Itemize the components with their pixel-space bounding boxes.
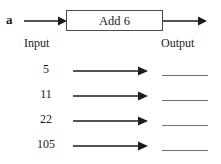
- input-value: 5: [22, 61, 70, 77]
- row-arrow-icon: [73, 114, 149, 128]
- input-value: 105: [22, 136, 70, 152]
- output-column-label: Output: [161, 36, 194, 50]
- function-rule-label: Add 6: [67, 11, 162, 32]
- table-row: 5: [0, 61, 221, 83]
- input-arrow-icon: [24, 14, 68, 28]
- function-machine-box: Add 6: [66, 10, 163, 31]
- table-row: 105: [0, 136, 221, 158]
- output-answer-blank[interactable]: [162, 100, 208, 101]
- input-column-label: Input: [24, 36, 49, 50]
- output-answer-blank[interactable]: [162, 125, 208, 126]
- input-variable-label: a: [6, 12, 13, 28]
- table-row: 11: [0, 86, 221, 108]
- function-machine-diagram: a Add 6 Input Output 5 11 22: [0, 0, 221, 164]
- row-arrow-icon: [73, 89, 149, 103]
- table-row: 22: [0, 111, 221, 133]
- row-arrow-icon: [73, 139, 149, 153]
- row-arrow-icon: [73, 64, 149, 78]
- input-value: 22: [22, 111, 70, 127]
- output-arrow-icon: [163, 14, 208, 28]
- output-answer-blank[interactable]: [162, 150, 208, 151]
- output-answer-blank[interactable]: [162, 75, 208, 76]
- input-value: 11: [22, 86, 70, 102]
